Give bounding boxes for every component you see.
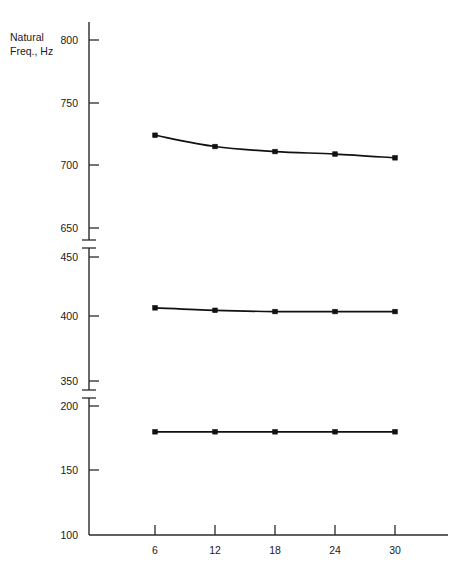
series-line-upper (155, 135, 395, 158)
data-point-lower-18 (273, 430, 278, 435)
axis-break-upper (82, 240, 96, 248)
data-point-upper-30 (393, 156, 398, 161)
data-series-layer (153, 133, 398, 434)
data-point-lower-6 (153, 430, 158, 435)
y-axis: 800 750 700 650 450 400 350 200 150 100 (60, 22, 99, 541)
y-tick-label-450: 450 (60, 251, 78, 263)
x-tick-label-18: 18 (269, 544, 281, 556)
data-point-upper-24 (333, 152, 338, 157)
series-upper (153, 133, 398, 160)
data-point-middle-6 (153, 306, 158, 311)
y-tick-label-350: 350 (60, 375, 78, 387)
data-point-upper-6 (153, 133, 158, 138)
data-point-lower-24 (333, 430, 338, 435)
data-point-upper-18 (273, 149, 278, 154)
x-tick-label-24: 24 (329, 544, 341, 556)
x-axis: 6 12 18 24 30 (89, 525, 448, 556)
data-point-middle-18 (273, 309, 278, 314)
y-tick-label-100: 100 (60, 529, 78, 541)
data-point-middle-24 (333, 309, 338, 314)
y-axis-title-line1: Natural (10, 31, 44, 43)
data-point-middle-12 (213, 308, 218, 313)
data-point-lower-30 (393, 430, 398, 435)
line-chart-svg: Natural Freq., Hz (0, 0, 465, 569)
y-axis-title-line2: Freq., Hz (10, 45, 53, 57)
x-tick-label-30: 30 (389, 544, 401, 556)
y-tick-label-200: 200 (60, 400, 78, 412)
series-middle (153, 306, 398, 314)
x-tick-label-6: 6 (152, 544, 158, 556)
data-point-middle-30 (393, 309, 398, 314)
x-tick-label-12: 12 (209, 544, 221, 556)
y-tick-label-150: 150 (60, 464, 78, 476)
series-lower (153, 430, 398, 435)
y-tick-label-800: 800 (60, 34, 78, 46)
y-tick-label-650: 650 (60, 222, 78, 234)
y-tick-label-400: 400 (60, 310, 78, 322)
data-point-upper-12 (213, 144, 218, 149)
axis-break-lower (82, 390, 96, 398)
data-point-lower-12 (213, 430, 218, 435)
chart-figure: Natural Freq., Hz (0, 0, 465, 569)
y-tick-label-700: 700 (60, 159, 78, 171)
y-tick-label-750: 750 (60, 97, 78, 109)
